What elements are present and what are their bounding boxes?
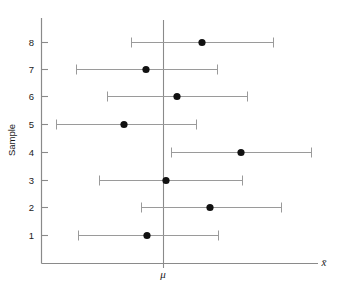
mu-label: μ: [159, 268, 166, 280]
mean-dot-5: [120, 121, 127, 128]
interval-row-6: [107, 92, 248, 102]
mean-dot-3: [162, 177, 169, 184]
interval-row-3: [99, 176, 243, 186]
y-tick-label-5: 5: [29, 119, 34, 130]
interval-row-7: [76, 65, 218, 75]
mean-dot-2: [206, 204, 213, 211]
y-tick-label-7: 7: [29, 64, 34, 75]
y-tick-label-1: 1: [29, 230, 34, 241]
y-tick-labels: 8 7 6 5 4 3 2 1: [29, 37, 34, 241]
plot-area: 8 7 6 5 4 3 2 1 Sample x̄ μ: [0, 0, 340, 289]
y-tick-label-8: 8: [29, 37, 34, 48]
interval-row-1: [78, 231, 219, 241]
y-tick-label-4: 4: [29, 147, 34, 158]
interval-row-8: [131, 38, 274, 48]
mean-dot-6: [173, 93, 180, 100]
y-tick-label-2: 2: [29, 202, 34, 213]
interval-row-5: [56, 120, 197, 130]
y-tick-label-6: 6: [29, 91, 34, 102]
mean-dot-8: [198, 39, 205, 46]
mean-dot-4: [237, 149, 244, 156]
interval-series: [56, 38, 312, 241]
mean-dot-7: [142, 66, 149, 73]
x-axis-title: x̄: [321, 256, 327, 268]
confidence-interval-chart: 8 7 6 5 4 3 2 1 Sample x̄ μ: [0, 0, 340, 289]
y-tick-label-3: 3: [29, 175, 34, 186]
mean-dot-1: [143, 232, 150, 239]
y-tick-marks: [42, 43, 49, 236]
interval-row-2: [141, 203, 282, 213]
interval-row-4: [171, 148, 312, 158]
axes-group: [42, 18, 319, 268]
y-axis-title: Sample: [6, 124, 17, 156]
